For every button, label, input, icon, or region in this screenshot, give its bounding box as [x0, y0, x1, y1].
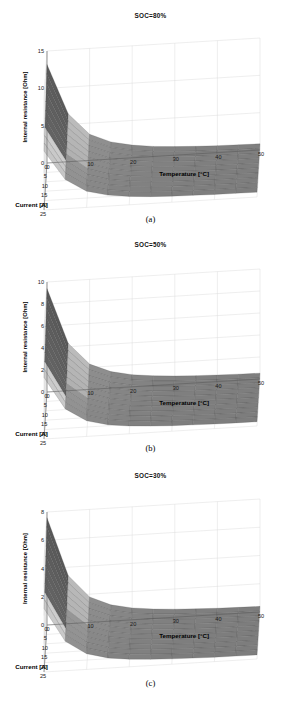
svg-text:4: 4 — [41, 566, 44, 572]
svg-text:50: 50 — [258, 151, 264, 157]
svg-text:30: 30 — [173, 156, 179, 162]
panel-b-caption: (b) — [0, 443, 301, 453]
z-axis-label: Internal resistance [Ohm] — [22, 71, 28, 142]
svg-text:50: 50 — [258, 613, 264, 619]
y-axis-label: Temperature [°C] — [159, 632, 209, 639]
svg-text:5: 5 — [44, 173, 47, 179]
panel-a-plot: 051015051015202501020304050Current [A]Te… — [0, 0, 301, 237]
svg-text:10: 10 — [42, 412, 48, 418]
panel-c: SOC=30% 02468051015202501020304050Curren… — [0, 465, 301, 703]
svg-text:5: 5 — [44, 635, 47, 641]
svg-text:15: 15 — [41, 654, 47, 660]
svg-text:8: 8 — [41, 301, 44, 307]
svg-text:15: 15 — [41, 192, 47, 198]
svg-text:8: 8 — [41, 509, 44, 515]
svg-text:10: 10 — [87, 161, 93, 167]
svg-text:10: 10 — [87, 390, 93, 396]
panel-a-title: SOC=80% — [0, 12, 301, 19]
panel-b-title: SOC=50% — [0, 241, 301, 248]
svg-text:20: 20 — [130, 621, 136, 627]
x-axis-label: Current [A] — [15, 430, 48, 437]
panel-a: SOC=80% 051015051015202501020304050Curre… — [0, 0, 301, 237]
panel-b-plot: 0246810051015202501020304050Current [A]T… — [0, 237, 301, 465]
svg-text:15: 15 — [38, 48, 44, 54]
svg-text:0: 0 — [46, 164, 49, 170]
svg-text:10: 10 — [42, 645, 48, 651]
panel-b: SOC=50% 0246810051015202501020304050Curr… — [0, 237, 301, 465]
svg-text:5: 5 — [44, 402, 47, 408]
svg-text:30: 30 — [173, 618, 179, 624]
svg-text:10: 10 — [38, 85, 44, 91]
figure-container: SOC=80% 051015051015202501020304050Curre… — [0, 0, 301, 703]
svg-text:4: 4 — [41, 345, 44, 351]
panel-a-caption: (a) — [0, 214, 301, 224]
panel-c-title: SOC=30% — [0, 472, 301, 479]
svg-text:0: 0 — [46, 393, 49, 399]
svg-text:10: 10 — [42, 183, 48, 189]
svg-text:30: 30 — [173, 385, 179, 391]
x-axis-label: Current [A] — [15, 663, 48, 670]
svg-text:10: 10 — [38, 279, 44, 285]
svg-text:50: 50 — [258, 380, 264, 386]
svg-text:40: 40 — [215, 154, 221, 160]
svg-text:10: 10 — [87, 623, 93, 629]
z-axis-label: Internal resistance [Ohm] — [22, 533, 28, 604]
y-axis-label: Temperature [°C] — [159, 170, 209, 177]
svg-text:6: 6 — [41, 323, 44, 329]
svg-text:40: 40 — [215, 616, 221, 622]
x-axis-label: Current [A] — [15, 201, 48, 208]
svg-text:15: 15 — [41, 421, 47, 427]
svg-text:40: 40 — [215, 383, 221, 389]
svg-text:20: 20 — [130, 388, 136, 394]
svg-text:6: 6 — [41, 537, 44, 543]
svg-text:5: 5 — [41, 123, 44, 129]
svg-text:2: 2 — [41, 367, 44, 373]
z-axis-label: Internal resistance [Ohm] — [22, 301, 28, 372]
svg-text:0: 0 — [46, 626, 49, 632]
panel-c-caption: (c) — [0, 678, 301, 688]
svg-text:20: 20 — [130, 159, 136, 165]
svg-text:2: 2 — [41, 594, 44, 600]
panel-c-plot: 02468051015202501020304050Current [A]Tem… — [0, 465, 301, 703]
y-axis-label: Temperature [°C] — [159, 399, 209, 406]
